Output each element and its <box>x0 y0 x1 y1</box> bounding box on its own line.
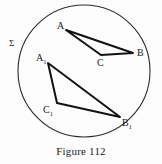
vertex-label-c: C <box>97 58 104 68</box>
geometry-diagram <box>0 0 162 164</box>
triangle-abc <box>66 30 133 55</box>
vertex-label-c1: C1 <box>43 105 53 118</box>
vertex-label-a: A <box>57 21 64 31</box>
vertex-label-c1-base: C <box>43 104 50 115</box>
triangle-a1b1c1 <box>48 63 120 117</box>
vertex-label-b1-base: B <box>122 117 129 128</box>
plane-label-sigma: Σ <box>9 39 14 48</box>
vertex-label-b1-sub: 1 <box>129 123 132 130</box>
vertex-label-b1: B1 <box>122 118 132 131</box>
vertex-label-b: B <box>137 48 144 58</box>
vertex-label-a1: A1 <box>36 53 46 66</box>
vertex-label-a1-sub: 1 <box>43 58 46 65</box>
figure-container: Σ A B C A1 B1 C1 Figure 112 <box>0 0 162 164</box>
figure-caption: Figure 112 <box>0 145 162 157</box>
vertex-label-c1-sub: 1 <box>50 110 53 117</box>
